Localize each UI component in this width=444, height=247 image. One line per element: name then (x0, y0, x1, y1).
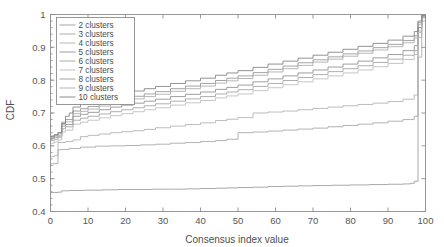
y-axis-title: CDF (5, 100, 16, 121)
x-tick-label: 80 (345, 215, 356, 226)
y-tick-label: 0.8 (32, 75, 45, 86)
x-tick-label: 70 (308, 215, 319, 226)
legend-label: 8 clusters (79, 75, 114, 84)
x-tick-label: 50 (233, 215, 244, 226)
legend-label: 10 clusters (79, 93, 119, 102)
x-axis-title: Consensus index value (185, 234, 289, 245)
cdf-consensus-figure: 0102030405060708090100 0.40.50.60.70.80.… (0, 0, 444, 247)
y-tick-label: 0.9 (32, 42, 45, 53)
legend-label: 6 clusters (79, 57, 114, 66)
legend-label: 9 clusters (79, 84, 114, 93)
legend-label: 4 clusters (79, 39, 114, 48)
x-axis-tick-labels: 0102030405060708090100 (48, 215, 434, 226)
x-tick-label: 0 (48, 215, 53, 226)
x-tick-label: 100 (418, 215, 434, 226)
x-tick-label: 30 (158, 215, 169, 226)
x-tick-label: 40 (195, 215, 206, 226)
y-tick-label: 0.7 (32, 107, 45, 118)
legend-label: 7 clusters (79, 66, 114, 75)
legend[interactable]: 2 clusters3 clusters4 clusters5 clusters… (57, 18, 135, 105)
x-tick-label: 20 (120, 215, 131, 226)
y-tick-label: 0.6 (32, 140, 45, 151)
y-tick-label: 1 (40, 9, 45, 20)
x-tick-label: 60 (270, 215, 281, 226)
legend-label: 3 clusters (79, 30, 114, 39)
y-tick-label: 0.5 (32, 173, 45, 184)
y-tick-label: 0.4 (32, 206, 45, 217)
legend-label: 5 clusters (79, 48, 114, 57)
x-tick-label: 10 (83, 215, 94, 226)
plot-canvas: 0102030405060708090100 0.40.50.60.70.80.… (0, 0, 444, 247)
y-axis-tick-labels: 0.40.50.60.70.80.91 (32, 9, 45, 217)
x-tick-label: 90 (383, 215, 394, 226)
legend-label: 2 clusters (79, 21, 114, 30)
